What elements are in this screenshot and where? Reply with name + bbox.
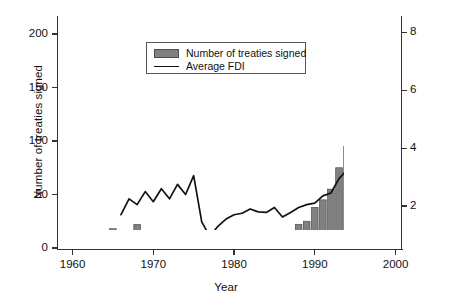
x-tick [233, 250, 234, 255]
x-tick [395, 250, 396, 255]
bar [328, 189, 335, 230]
y-tick-right [402, 148, 407, 149]
y-tick-label-left: 0 [0, 241, 48, 253]
bar [320, 200, 327, 230]
x-tick [72, 250, 73, 255]
x-tick-label: 1990 [285, 258, 345, 270]
bar [295, 224, 302, 230]
x-axis-title: Year [0, 281, 452, 293]
y-tick-label-right: 2 [410, 199, 450, 211]
plot-area [0, 0, 344, 230]
x-tick [314, 250, 315, 255]
legend-label-fdi: Average FDI [186, 60, 245, 72]
legend-line-icon [154, 66, 179, 67]
x-tick-label: 1970 [123, 258, 183, 270]
y-tick-right [402, 90, 407, 91]
fdi-line-series [121, 80, 344, 230]
y-tick-right [402, 32, 407, 33]
y-tick-right [402, 205, 407, 206]
y-tick-left [52, 247, 57, 248]
bar [134, 224, 141, 230]
y-tick-label-right: 6 [410, 83, 450, 95]
legend-item-treaties: Number of treaties signed [154, 46, 306, 60]
legend-swatch-bar-icon [154, 49, 179, 58]
bar [311, 207, 318, 230]
x-tick-label: 1960 [43, 258, 103, 270]
chart-legend: Number of treaties signed Average FDI [146, 42, 306, 74]
bar [303, 221, 310, 230]
x-tick-label: 1980 [204, 258, 264, 270]
bar [110, 229, 117, 230]
legend-item-fdi: Average FDI [154, 59, 245, 73]
x-tick [153, 250, 154, 255]
chart-figure: Number of treaties signed Average FDI, g… [0, 0, 452, 304]
axis-spine-bottom [57, 249, 403, 250]
axis-spine-right [401, 16, 402, 250]
y-tick-label-right: 4 [410, 141, 450, 153]
y-tick-label-right: 8 [410, 25, 450, 37]
legend-label-treaties: Number of treaties signed [186, 47, 306, 59]
x-tick-label: 2000 [366, 258, 426, 270]
